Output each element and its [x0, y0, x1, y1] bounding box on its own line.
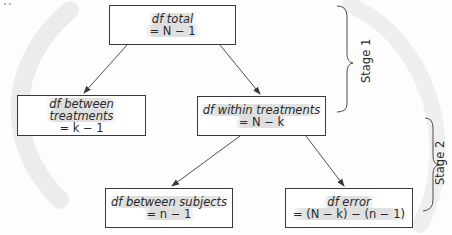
node-label-line1: df between — [45, 98, 118, 110]
arrow-total-to-between-treatments — [84, 45, 127, 93]
node-df-error: df error = (N − k) − (n − 1) — [285, 188, 413, 228]
stage-2-label: Stage 2 — [433, 145, 447, 185]
node-df-between-treatments: df between treatments = k − 1 — [17, 95, 146, 136]
node-formula: = n − 1 — [143, 208, 196, 220]
node-label-line2: treatments — [46, 110, 118, 122]
stage-1-label: Stage 1 — [359, 43, 373, 83]
arrow-within-to-error — [306, 136, 344, 186]
node-formula: = k − 1 — [59, 122, 103, 134]
arrow-within-to-between-subjects — [172, 136, 240, 186]
arrow-total-to-within-treatments — [220, 45, 260, 94]
stage-1-brace — [337, 6, 353, 112]
node-formula: = (N − k) − (n − 1) — [289, 208, 409, 220]
node-formula: = N − k — [235, 116, 289, 128]
node-df-between-subjects: df between subjects = n − 1 — [105, 188, 233, 228]
node-df-within-treatments: df within treatments = N − k — [197, 96, 326, 136]
node-df-total: df total = N − 1 — [109, 5, 236, 45]
node-formula: = N − 1 — [145, 25, 199, 37]
